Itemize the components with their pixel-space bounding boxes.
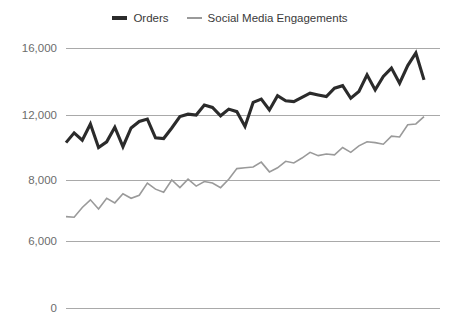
y-axis-tick-labels: 16,000 12,000 8,000 6,000 0 [22,42,57,314]
ytick-label-0: 0 [51,302,57,314]
ytick-label-6000: 6,000 [28,235,57,247]
series-line-social-media-engagements [66,117,424,218]
y-axis-gridlines [66,48,440,308]
ytick-label-8000: 8,000 [28,174,57,186]
chart-container: Orders Social Media Engagements 16,000 1… [0,0,460,332]
ytick-label-12000: 12,000 [22,109,57,121]
ytick-label-16000: 16,000 [22,42,57,54]
line-chart-plot: 16,000 12,000 8,000 6,000 0 [0,0,460,332]
series-line-orders [66,53,424,147]
